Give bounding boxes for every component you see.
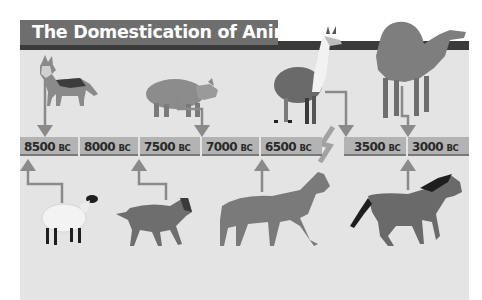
pig-illustration — [146, 78, 218, 117]
cattle-illustration — [220, 172, 330, 246]
timeline-era: BC — [447, 143, 459, 153]
timeline-era: BC — [119, 143, 131, 153]
timeline-year: 8500 — [24, 140, 55, 154]
timeline-year: 3000 — [412, 140, 443, 154]
timeline-year: 8000 — [84, 140, 115, 154]
timeline-segment: 3500 BC — [344, 137, 406, 156]
timeline-year: 6500 — [265, 140, 296, 154]
dog-illustration — [40, 55, 98, 106]
timeline-era: BC — [389, 143, 401, 153]
timeline-segment: 6500 BC — [261, 137, 322, 156]
sheep-illustration — [42, 195, 98, 245]
goat-illustration — [116, 194, 192, 246]
bottom-arrows — [20, 159, 416, 203]
timeline-segment: 3000 BC — [408, 137, 469, 156]
timeline-era: BC — [179, 143, 191, 153]
timeline-era: BC — [59, 143, 71, 153]
timeline-segment: 8500 BC — [20, 137, 78, 156]
timeline-era: BC — [300, 143, 312, 153]
timeline-bar: 8500 BC 8000 BC 7500 BC 7000 BC 6500 BC … — [20, 137, 469, 158]
timeline-segment: 7000 BC — [202, 137, 259, 156]
timeline-segment: 8000 BC — [80, 137, 138, 156]
top-arrows — [37, 80, 416, 137]
timeline-year: 3500 — [354, 140, 385, 154]
llama-illustration — [274, 26, 342, 124]
timeline-segment: 7500 BC — [140, 137, 200, 156]
timeline-era: BC — [241, 143, 253, 153]
timeline-year: 7000 — [206, 140, 237, 154]
timeline-year: 7500 — [144, 140, 175, 154]
camel-illustration — [376, 22, 466, 118]
horse-illustration — [350, 174, 462, 246]
